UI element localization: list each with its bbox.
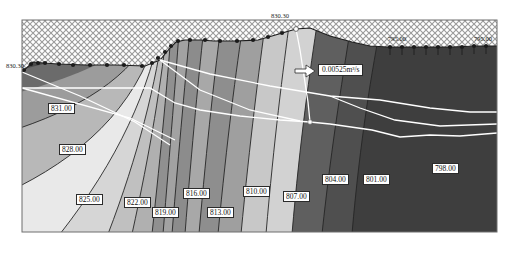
elevation-label-upstream-crest: 830.30 bbox=[6, 62, 24, 70]
seepage-exit-node-icon bbox=[308, 120, 312, 124]
figure-canvas: 0.00525m³/s 830.30 830.30 795.00 795.00 … bbox=[0, 0, 515, 257]
contour-label-798: 798.00 bbox=[432, 163, 459, 174]
contour-label-801: 801.00 bbox=[363, 174, 390, 185]
elevation-label-crest: 830.30 bbox=[271, 12, 289, 20]
crest-node-icon bbox=[294, 27, 299, 32]
contour-label-813: 813.00 bbox=[207, 207, 234, 218]
contour-label-828: 828.00 bbox=[59, 144, 86, 155]
contour-label-816: 816.00 bbox=[183, 188, 210, 199]
flux-value-label: 0.00525m³/s bbox=[318, 64, 363, 76]
contour-label-819: 819.00 bbox=[152, 207, 179, 218]
elevation-label-downstream-left: 795.00 bbox=[388, 35, 406, 43]
contour-label-804: 804.00 bbox=[322, 174, 349, 185]
seepage-contour-plot bbox=[0, 0, 515, 257]
contour-label-831: 831.00 bbox=[48, 103, 75, 114]
contour-label-825: 825.00 bbox=[76, 194, 103, 205]
contour-label-822: 822.00 bbox=[124, 197, 151, 208]
contour-label-810: 810.00 bbox=[243, 186, 270, 197]
contour-label-807: 807.00 bbox=[283, 191, 310, 202]
elevation-label-downstream-right: 795.00 bbox=[474, 35, 492, 43]
